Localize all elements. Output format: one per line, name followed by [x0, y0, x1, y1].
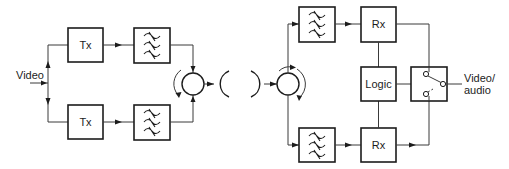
- rx-lower-filter: [299, 128, 335, 162]
- selector-switch: [411, 67, 447, 101]
- rx-upper-filter: [299, 7, 335, 42]
- logic-label: Logic: [365, 78, 392, 90]
- tx-upper-filter: [134, 28, 170, 63]
- switch-contact-lower-icon: [423, 91, 428, 96]
- rx-upper-block: Rx: [361, 7, 396, 42]
- rx-dish-to-circulator-arrow: [264, 82, 277, 87]
- output-label-line1: Video/: [464, 72, 496, 84]
- rx-upper-label: Rx: [372, 18, 386, 30]
- tx-lower-filter: [134, 105, 170, 140]
- video-input-label: Video: [16, 69, 44, 81]
- rx-lower-block: Rx: [361, 128, 396, 162]
- rx-dish-antenna-icon: [251, 71, 260, 97]
- logic-block: Logic: [361, 67, 396, 101]
- tx-circulator: [174, 70, 214, 98]
- tx-dish-antenna-icon: [220, 71, 229, 97]
- tx-upper-block: Tx: [68, 28, 103, 62]
- rx-circulator-to-filter-lines: [288, 22, 299, 148]
- tx-upper-to-filter-arrow: [103, 43, 134, 48]
- diversity-link-diagram: Video Tx Tx: [0, 0, 509, 169]
- output-label-line2: audio: [464, 84, 491, 96]
- tx-lower-to-filter-arrow: [103, 120, 134, 125]
- tx-lower-label: Tx: [79, 116, 92, 128]
- switch-contact-upper-icon: [423, 71, 428, 76]
- rx-lower-filter-to-rx-arrow: [335, 143, 361, 148]
- tx-upper-label: Tx: [79, 39, 92, 51]
- split-line: [46, 45, 69, 122]
- rx-circulator: [277, 65, 305, 102]
- input-arrow: [30, 81, 48, 86]
- rx-upper-filter-to-rx-arrow: [335, 22, 361, 27]
- switch-common-contact-icon: [440, 81, 445, 86]
- tx-lower-block: Tx: [68, 105, 103, 139]
- rx-lower-label: Rx: [372, 139, 386, 151]
- circulator-rotation-arrow-icon: [174, 70, 181, 95]
